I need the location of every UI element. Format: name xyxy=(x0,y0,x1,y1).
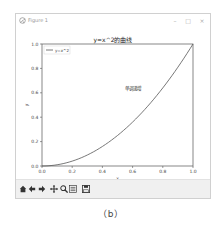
x-tick-label: 1.0 xyxy=(189,169,196,174)
figure-canvas[interactable]: y=x^2的曲线 0.00.20.40.60.81.00.00.20.40.60… xyxy=(16,28,210,180)
forward-button[interactable] xyxy=(37,185,46,194)
x-tick-label: 0.4 xyxy=(99,169,106,174)
zoom-button[interactable] xyxy=(59,185,68,194)
minimize-button[interactable]: – xyxy=(170,16,180,25)
y-tick-label: 0.2 xyxy=(31,139,38,144)
close-button[interactable]: × xyxy=(197,16,207,25)
save-button[interactable] xyxy=(81,185,90,194)
matplotlib-app-icon xyxy=(19,17,26,24)
sliders-icon xyxy=(69,185,77,193)
navigation-toolbar xyxy=(16,179,210,198)
configure-subplots-button[interactable] xyxy=(69,185,78,194)
y-tick-label: 0.6 xyxy=(31,90,38,95)
x-tick-label: 0.0 xyxy=(38,169,45,174)
floppy-icon xyxy=(82,185,90,193)
annotation-text: 单调递增 xyxy=(125,85,142,92)
x-tick-label: 0.2 xyxy=(69,169,76,174)
y-axis-label: y xyxy=(24,103,29,106)
plot-area[interactable]: 0.00.20.40.60.81.00.00.20.40.60.81.0xyy=… xyxy=(16,28,212,180)
magnifier-icon xyxy=(60,185,68,193)
home-button[interactable] xyxy=(18,185,27,194)
pan-button[interactable] xyxy=(50,185,59,194)
window-title: Figure 1 xyxy=(28,17,48,24)
figure-caption: （b） xyxy=(0,207,222,220)
y-tick-label: 0.0 xyxy=(31,164,38,169)
move-icon xyxy=(50,185,58,193)
y-tick-label: 0.8 xyxy=(31,66,38,71)
legend-label: y=x^2 xyxy=(55,48,69,53)
arrow-left-icon xyxy=(28,185,36,193)
maximize-button[interactable]: □ xyxy=(183,16,193,25)
title-bar[interactable]: Figure 1 – □ × xyxy=(16,14,210,28)
figure-window: Figure 1 – □ × y=x^2的曲线 0.00.20.40.60.81… xyxy=(15,13,211,199)
x-tick-label: 0.8 xyxy=(159,169,166,174)
axes-frame xyxy=(42,44,193,166)
back-button[interactable] xyxy=(28,185,37,194)
y-tick-label: 0.4 xyxy=(31,115,38,120)
arrow-right-icon xyxy=(38,185,46,193)
x-tick-label: 0.6 xyxy=(129,169,136,174)
y-tick-label: 1.0 xyxy=(31,42,38,47)
home-icon xyxy=(19,185,27,193)
